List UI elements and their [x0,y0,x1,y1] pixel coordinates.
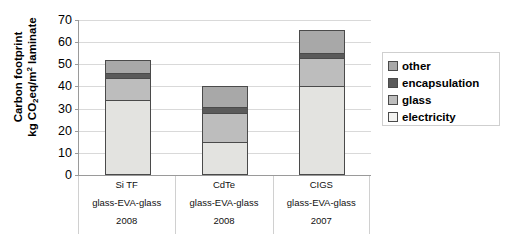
y-tick-0: 0 [46,170,72,180]
bar-cigs [299,30,345,175]
category-cell-cdte: CdTeglass-EVA-glass2008 [175,176,272,234]
segment-cigs-electricity [299,86,345,175]
category-technology-0: Si TF [78,180,175,190]
y-tick-70: 70 [46,15,72,25]
bar-si-tf [105,60,151,175]
y-tick-10: 10 [46,148,72,158]
y-tick-40: 40 [46,81,72,91]
tickmark-70 [75,20,79,21]
legend-swatch-glass [388,95,398,105]
legend-item-electricity: electricity [388,109,499,125]
tickmark-60 [75,42,79,43]
y-axis-title-line2: kg CO2eq/m2 laminate [26,0,41,177]
segment-cdte-glass [202,113,248,142]
gridline-70 [79,20,371,21]
y-tick-20: 20 [46,126,72,136]
category-year-0: 2008 [78,216,175,226]
y-axis-title-line1: Carbon footprint [12,32,24,123]
segment-si-tf-electricity [105,100,151,175]
legend-swatch-electricity [388,112,398,122]
category-cell-cigs: CIGSglass-EVA-glass2007 [273,176,370,234]
tickmark-30 [75,109,79,110]
legend-item-glass: glass [388,92,499,108]
segment-cigs-glass [299,58,345,87]
segment-si-tf-glass [105,78,151,100]
y-tick-30: 30 [46,104,72,114]
y-tick-60: 60 [46,37,72,47]
segment-si-tf-other [105,60,151,73]
legend-item-encapsulation: encapsulation [388,75,499,91]
category-year-2: 2007 [273,216,370,226]
tickmark-50 [75,64,79,65]
legend-swatch-encapsulation [388,78,398,88]
legend-label-encapsulation: encapsulation [402,77,479,89]
segment-cigs-other [299,30,345,53]
category-technology-1: CdTe [175,180,272,190]
category-laminate-2: glass-EVA-glass [273,198,370,208]
plot-area [78,20,370,175]
category-year-1: 2008 [175,216,272,226]
y-axis-title-wrapper: Carbon footprint kg CO2eq/m2 laminate [0,0,52,200]
category-cell-si-tf: Si TFglass-EVA-glass2008 [78,176,175,234]
y-axis-title: Carbon footprint kg CO2eq/m2 laminate [12,0,40,177]
legend-label-electricity: electricity [402,111,456,123]
legend-item-other: other [388,58,499,74]
chart-figure: Carbon footprint kg CO2eq/m2 laminate 70… [0,0,512,236]
category-separator-1 [175,176,176,234]
tickmark-20 [75,131,79,132]
tickmark-40 [75,86,79,87]
legend-swatch-other [388,61,398,71]
y-tick-50: 50 [46,59,72,69]
category-separator-2 [273,176,274,234]
legend-label-other: other [402,60,431,72]
segment-cdte-other [202,86,248,107]
bar-cdte [202,86,248,175]
segment-cdte-electricity [202,142,248,175]
chart-legend: otherencapsulationglasselectricity [382,52,500,126]
category-separator-edge-0 [78,176,79,234]
category-technology-2: CIGS [273,180,370,190]
x-axis-category-labels: Si TFglass-EVA-glass2008CdTeglass-EVA-gl… [78,176,370,234]
legend-label-glass: glass [402,94,431,106]
category-laminate-0: glass-EVA-glass [78,198,175,208]
tickmark-10 [75,153,79,154]
category-separator-edge-1 [369,176,370,234]
category-laminate-1: glass-EVA-glass [175,198,272,208]
